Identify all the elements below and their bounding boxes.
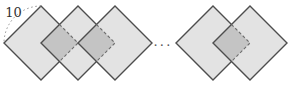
- shapes-layer: [4, 6, 287, 80]
- squares-diagram: 10 ...: [0, 0, 288, 96]
- ellipsis-label: ...: [154, 34, 173, 49]
- side-length-label: 10: [5, 5, 22, 20]
- figure-canvas: 10 ...: [0, 0, 288, 96]
